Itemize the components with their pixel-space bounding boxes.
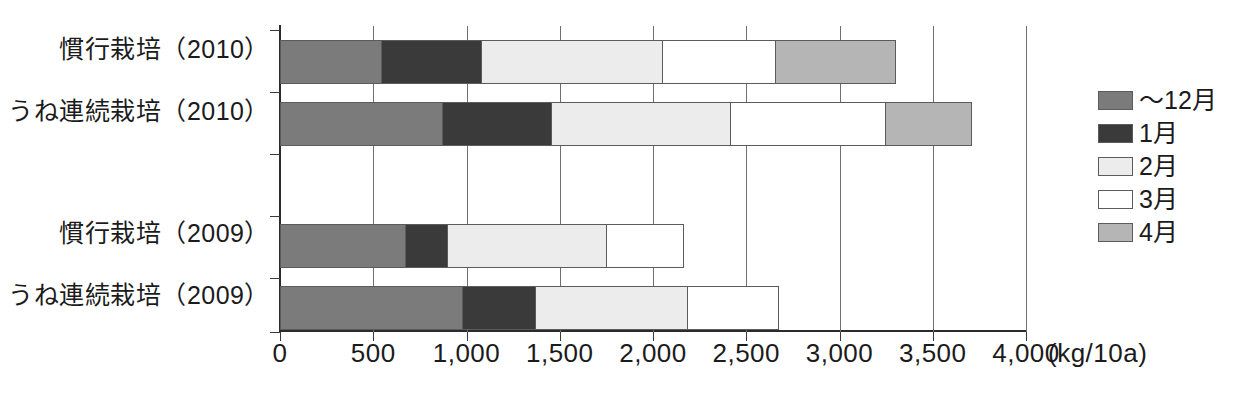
bar-row[interactable] [280, 286, 779, 330]
legend-label: 2月 [1139, 154, 1178, 179]
gridline [1026, 26, 1027, 332]
x-axis-unit-label: (kg/10a) [1048, 340, 1147, 366]
bar-row[interactable] [280, 102, 972, 146]
plot-area [280, 26, 1026, 332]
category-label: うね連続栽培（2010） [8, 99, 270, 124]
legend-item[interactable]: 1月 [1098, 117, 1248, 150]
x-tick-label: 3,000 [806, 340, 874, 366]
x-axis-tick-labels: 05001,0001,5002,0002,5003,0003,5004,000(… [0, 340, 1251, 380]
bar-segment[interactable] [442, 102, 552, 146]
bar-segment[interactable] [551, 102, 731, 146]
bar-segment[interactable] [280, 286, 463, 330]
bar-segment[interactable] [885, 102, 972, 146]
y-axis-tick [270, 30, 280, 31]
bar-segment[interactable] [280, 102, 443, 146]
legend-item[interactable]: 3月 [1098, 183, 1248, 216]
y-axis-tick [270, 278, 280, 279]
stacked-bar-chart: 慣行栽培（2010）うね連続栽培（2010）慣行栽培（2009）うね連続栽培（2… [0, 0, 1251, 398]
x-tick-label: 1,500 [526, 340, 594, 366]
legend-label: 4月 [1139, 220, 1178, 245]
bar-segment[interactable] [462, 286, 537, 330]
bar-segment[interactable] [775, 40, 896, 84]
category-label: うね連続栽培（2009） [8, 283, 270, 308]
x-tick-label: 500 [351, 340, 396, 366]
bar-segment[interactable] [535, 286, 688, 330]
y-axis-tick [270, 154, 280, 155]
legend-label: ～12月 [1139, 88, 1217, 113]
legend-item[interactable]: 2月 [1098, 150, 1248, 183]
bar-row[interactable] [280, 224, 684, 268]
category-axis-labels: 慣行栽培（2010）うね連続栽培（2010）慣行栽培（2009）うね連続栽培（2… [0, 0, 278, 332]
bar-segment[interactable] [481, 40, 663, 84]
bar-segment[interactable] [280, 224, 406, 268]
bar-segment[interactable] [606, 224, 684, 268]
bar-segment[interactable] [447, 224, 607, 268]
category-label: 慣行栽培（2009） [59, 221, 270, 246]
legend-item[interactable]: ～12月 [1098, 84, 1248, 117]
y-axis-tick [270, 216, 280, 217]
legend-swatch [1098, 157, 1133, 176]
x-tick-label: 1,000 [433, 340, 501, 366]
category-label: 慣行栽培（2010） [59, 37, 270, 62]
legend-swatch [1098, 190, 1133, 209]
bar-segment[interactable] [662, 40, 776, 84]
bar-row[interactable] [280, 40, 896, 84]
x-tick-label: 2,000 [619, 340, 687, 366]
x-tick-label: 2,500 [712, 340, 780, 366]
x-tick-label: 3,500 [899, 340, 967, 366]
legend-swatch [1098, 223, 1133, 242]
legend-swatch [1098, 124, 1133, 143]
bar-segment[interactable] [280, 40, 382, 84]
bar-segment[interactable] [381, 40, 483, 84]
bar-segment[interactable] [730, 102, 886, 146]
y-axis-tick [270, 332, 280, 333]
legend-label: 1月 [1139, 121, 1178, 146]
x-tick-label: 0 [273, 340, 288, 366]
legend-item[interactable]: 4月 [1098, 216, 1248, 249]
chart-legend: ～12月1月2月3月4月 [1098, 84, 1248, 249]
y-axis-tick [270, 92, 280, 93]
legend-swatch [1098, 91, 1133, 110]
legend-label: 3月 [1139, 187, 1178, 212]
bar-segment[interactable] [687, 286, 778, 330]
bar-segment[interactable] [405, 224, 448, 268]
gridline [933, 26, 934, 332]
